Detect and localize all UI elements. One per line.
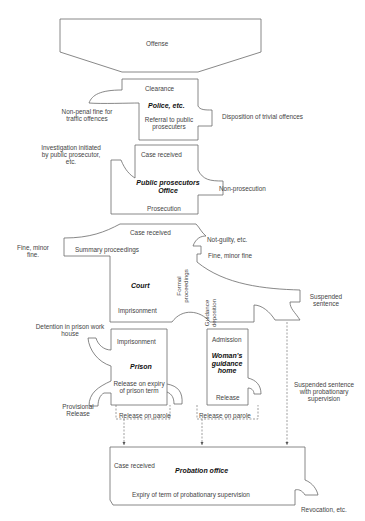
revocation-label: Revocation, etc.	[301, 506, 347, 513]
womens-home-admission-label: Admission	[212, 336, 241, 343]
suspended-probation-label: Suspended sentence with probationary sup…	[288, 381, 360, 402]
investigation-label: Investigation initiated by public prosec…	[38, 144, 104, 165]
offense-label: Offense	[146, 40, 168, 47]
police-title: Police, etc.	[148, 102, 185, 110]
guidance-deposition-label: Guidance deposition	[203, 293, 217, 333]
prison-imprisonment-label: Imprisonment	[117, 338, 156, 345]
police-clearance: Clearance	[145, 85, 174, 92]
prison-title: Prison	[130, 363, 152, 371]
flow-diagram-shapes	[0, 0, 365, 521]
prosecutor-title: Public prosecutors Office	[133, 179, 203, 194]
provisional-release-label: Provisional Release	[58, 403, 98, 417]
fine-minor-fine-left-label: Fine, minor fine.	[14, 244, 52, 258]
non-penal-fine-label: Non-penal fine for traffic offences	[58, 108, 116, 122]
fine-minor-fine-right-label: Fine, minor fine	[208, 252, 252, 259]
court-case-received: Case received	[130, 229, 171, 236]
detention-label: Detention in prison work house	[35, 323, 105, 337]
prison-release-expiry-label: Release on expiry of prison term	[113, 380, 165, 394]
probation-expiry-label: Expiry of term of probationary supervisi…	[132, 491, 250, 498]
police-referral: Referral to public prosecuters	[140, 116, 198, 130]
trivial-offences-label: Disposition of trivial offences	[220, 113, 305, 120]
probation-title: Probation office	[175, 467, 228, 475]
womens-home-release-label: Release	[216, 394, 239, 401]
release-on-parole-prison-label: Release on parole	[119, 412, 171, 419]
non-prosecution-label: Non-prosecution	[219, 185, 266, 192]
court-title: Court	[131, 282, 150, 290]
suspended-sentence-label: Suspended sentence	[306, 293, 346, 307]
formal-proceedings-label: Formal proceedings	[175, 266, 189, 306]
womens-home-title: Woman's guidance home	[209, 352, 245, 375]
court-imprisonment-label: Imprisonment	[118, 307, 157, 314]
prosecution-label: Prosecution	[147, 205, 181, 212]
prosecutor-case-received: Case received	[141, 151, 182, 158]
summary-proceedings-label: Summary proceedings	[75, 246, 139, 253]
not-guilty-label: Not-guilty, etc.	[207, 236, 247, 243]
probation-case-received-label: Case received	[114, 462, 155, 469]
release-on-parole-home-label: Release on parole	[199, 412, 251, 419]
